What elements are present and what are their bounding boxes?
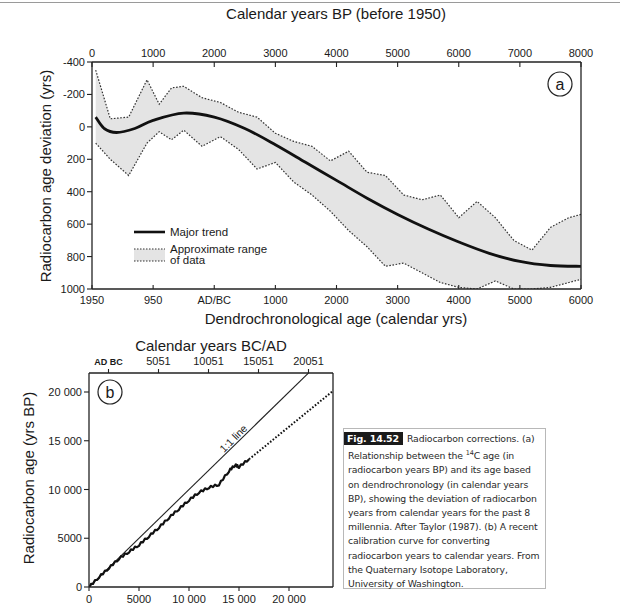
chart-a-bottom-tick-label: 4000 [447,294,471,306]
chart-a-top-tick-label: 7000 [508,47,532,59]
chart-a-y-tick-label: 0 [79,121,85,133]
chart-a-bottom-tick-label: 6000 [569,294,593,306]
chart-a-top-tick-label: 6000 [447,47,471,59]
chart-b-top-tick-label: 5051 [146,355,170,367]
chart-b-bottom-tick-label: 0 [86,593,92,605]
chart-a: Calendar years BP (before 1950) 01000200… [37,5,593,327]
chart-a-top-tick-label: 3000 [263,47,287,59]
chart-a-y-tick-label: 1000 [61,283,85,295]
caption-text-4: radiocarbon years BP) and its age based … [348,464,539,589]
caption-text-1: Radiocarbon corrections. (a) [407,433,534,444]
chart-b-y-tick-label: 0 [76,581,82,593]
chart-a-bottom-tick-label: 5000 [508,294,532,306]
chart-a-y-tick-label: -400 [63,56,85,68]
calibration-curve-extrapolated [249,390,334,459]
chart-b-top-tick-label: 15051 [243,355,274,367]
chart-a-top-xlabel: Calendar years BP (before 1950) [226,5,446,22]
legend-label-range-2: of data [170,254,206,266]
figure-caption: Fig. 14.52Radiocarbon corrections. (a) R… [343,428,546,589]
chart-b-bottom-tick-label: 20 000 [272,593,306,605]
chart-a-bottom-tick-label: 3000 [385,294,409,306]
chart-b-top-tick-label: AD BC [94,357,123,367]
chart-a-legend: Major trend Approximate range of data [134,226,267,266]
chart-b-y-tick-label: 5000 [58,532,82,544]
chart-b: Calendar years BC/AD AD BC50511005115051… [20,337,334,605]
caption-text-2: Relationship between the [348,450,466,461]
chart-a-bottom-tick-label: 950 [144,294,162,306]
chart-b-bottom-tick-label: 5000 [127,593,151,605]
svg-text:a: a [556,76,565,93]
chart-b-y-tick-label: 15 000 [48,435,82,447]
chart-a-bottom-tick-label: 1000 [263,294,287,306]
chart-a-bottom-tick-label: AD/BC [197,294,231,306]
chart-a-y-tick-label: 800 [67,251,85,263]
chart-b-y-ticks: 0500010 00015 00020 000 [48,386,89,593]
chart-b-top-tick-label: 10051 [193,355,224,367]
chart-b-y-tick-label: 10 000 [48,484,82,496]
chart-a-top-ticks: 010002000300040005000600070008000 [89,47,593,67]
panel-marker-b: b [98,380,122,404]
chart-a-y-ticks: -400-20002004006008001000 [61,56,92,295]
chart-a-bottom-tick-label: 1950 [80,294,104,306]
chart-b-bottom-tick-label: 15 000 [222,593,256,605]
chart-a-top-tick-label: 5000 [385,47,409,59]
panel-marker-a: a [548,72,572,96]
chart-a-y-tick-label: 200 [67,153,85,165]
chart-b-bottom-tick-label: 10 000 [172,593,206,605]
range-band [96,70,581,289]
svg-text:b: b [106,384,115,401]
chart-a-xlabel: Dendrochronological age (calendar yrs) [205,310,468,327]
chart-b-plot-area [89,373,334,588]
chart-a-bottom-tick-label: 2000 [324,294,348,306]
chart-b-top-tick-label: 20051 [293,355,324,367]
calibration-curve [89,459,249,588]
caption-superscript: 14 [466,449,474,457]
chart-a-top-tick-label: 4000 [324,47,348,59]
chart-a-top-tick-label: 1000 [141,47,165,59]
figure-label: Fig. 14.52 [344,432,403,445]
chart-b-y-tick-label: 20 000 [48,386,82,398]
chart-a-ylabel: Radiocarbon age deviation (yrs) [37,70,54,283]
chart-a-y-tick-label: 600 [67,218,85,230]
legend-swatch-range [134,249,165,261]
chart-a-y-tick-label: 400 [67,186,85,198]
chart-b-top-ticks: AD BC5051100511505120051 [94,355,324,373]
chart-a-plot-area [96,70,581,289]
chart-a-y-tick-label: -200 [63,88,85,100]
chart-a-top-tick-label: 0 [89,47,95,59]
chart-a-top-tick-label: 2000 [202,47,226,59]
one-to-one-label: 1:1 line [217,422,250,455]
one-to-one-line [89,373,309,588]
chart-b-bottom-ticks: 0500010 00015 00020 000 [86,587,306,605]
caption-text-3: C age (in [474,450,514,461]
legend-label-trend: Major trend [170,226,228,238]
chart-a-top-tick-label: 8000 [569,47,593,59]
chart-b-ylabel: Radiocarbon age (yrs BP) [20,392,37,565]
chart-b-top-xlabel: Calendar years BC/AD [135,337,287,354]
